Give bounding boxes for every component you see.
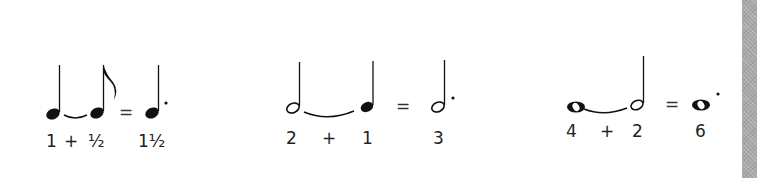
duration-label-right: ½	[88, 131, 104, 151]
dotted-quarter-note-icon	[143, 65, 167, 121]
dotted-half-note-icon	[430, 60, 454, 114]
quarter-note-icon	[359, 61, 375, 114]
plus-label: +	[600, 121, 614, 141]
eighth-note-icon	[88, 65, 116, 121]
duration-label-right: 1	[362, 128, 373, 148]
duration-label-left: 4	[566, 121, 577, 141]
duration-label-left: 1	[46, 131, 57, 151]
equals-sign: =	[665, 94, 679, 114]
plus-label: +	[322, 128, 336, 148]
tie-icon	[584, 108, 627, 113]
quarter-note-icon	[44, 65, 61, 122]
music-notation-figure: = 1 + ½ 1½ = 2 + 1 3	[0, 0, 757, 178]
equals-sign: =	[119, 102, 133, 122]
equals-sign: =	[396, 96, 410, 116]
duration-label-result: 6	[695, 121, 706, 141]
page-edge-margin	[742, 0, 757, 178]
duration-label-left: 2	[286, 128, 297, 148]
equation-1: = 1 + ½ 1½	[44, 65, 167, 151]
tie-icon	[64, 115, 87, 118]
whole-note-icon	[567, 101, 585, 112]
duration-label-result: 1½	[138, 131, 165, 151]
plus-label: +	[64, 131, 78, 151]
half-note-icon	[285, 62, 301, 115]
duration-label-right: 2	[632, 121, 643, 141]
duration-label-result: 3	[433, 128, 444, 148]
equation-2: = 2 + 1 3	[285, 60, 454, 148]
half-note-icon	[629, 56, 644, 112]
equation-3: = 4 + 2 6	[566, 56, 720, 141]
dotted-whole-note-icon	[692, 92, 720, 110]
tie-icon	[304, 111, 354, 117]
